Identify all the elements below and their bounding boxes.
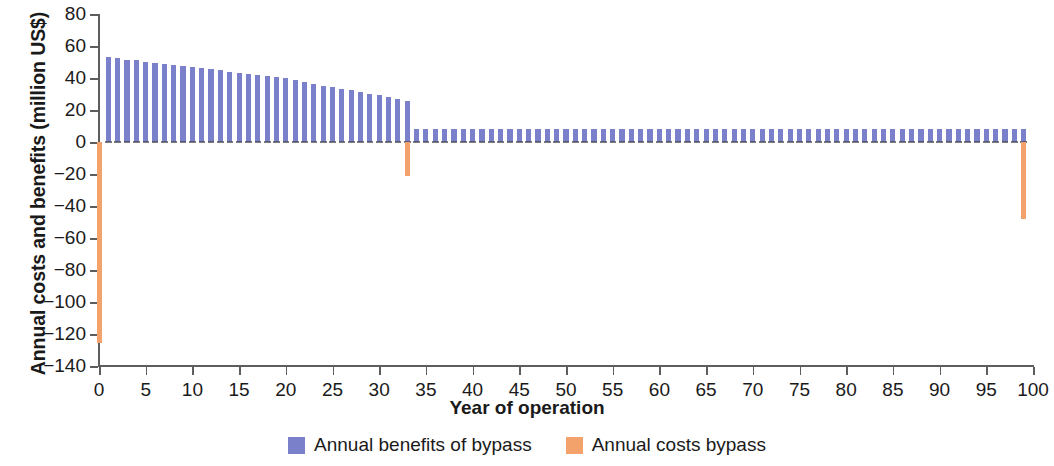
bar-baseline-shadow <box>628 141 635 143</box>
bar-baseline-shadow <box>516 141 523 143</box>
bar-cost <box>405 142 410 176</box>
bar-baseline-shadow <box>357 141 364 143</box>
legend-label: Annual benefits of bypass <box>314 434 532 456</box>
bar-benefit <box>162 64 167 142</box>
x-axis-tick-mark <box>1033 367 1035 375</box>
bar-baseline-shadow <box>376 141 383 143</box>
bar-benefit <box>180 66 185 142</box>
y-axis-tick-label: −80 <box>54 259 86 281</box>
bar-baseline-shadow <box>834 141 841 143</box>
bar-baseline-shadow <box>301 141 308 143</box>
bar-benefit <box>143 62 148 142</box>
bar-baseline-shadow <box>161 141 168 143</box>
y-axis-tick-label: 0 <box>75 131 86 153</box>
bar-baseline-shadow <box>815 141 822 143</box>
bar-baseline-shadow <box>759 141 766 143</box>
bar-benefit <box>134 60 139 142</box>
x-axis-tick-mark <box>286 367 288 375</box>
bar-baseline-shadow <box>927 141 934 143</box>
bar-baseline-shadow <box>619 141 626 143</box>
bar-baseline-shadow <box>852 141 859 143</box>
bar-baseline-shadow <box>273 141 280 143</box>
bar-benefit <box>265 76 270 142</box>
legend-label: Annual costs bypass <box>592 434 766 456</box>
bar-benefit <box>237 73 242 142</box>
y-axis-tick-label: −100 <box>43 291 86 313</box>
y-axis-tick-mark <box>90 14 98 16</box>
bar-baseline-shadow <box>563 141 570 143</box>
legend-item[interactable]: Annual benefits of bypass <box>288 434 532 456</box>
bar-baseline-shadow <box>348 141 355 143</box>
y-axis-tick-label: 60 <box>65 35 86 57</box>
bar-baseline-shadow <box>918 141 925 143</box>
bar-benefit <box>367 94 372 142</box>
bar-baseline-shadow <box>152 141 159 143</box>
bar-baseline-shadow <box>124 141 131 143</box>
bar-baseline-shadow <box>385 141 392 143</box>
bar-baseline-shadow <box>423 141 430 143</box>
bar-benefit <box>115 58 120 142</box>
bar-baseline-shadow <box>171 141 178 143</box>
bar-baseline-shadow <box>908 141 915 143</box>
bar-baseline-shadow <box>862 141 869 143</box>
bar-baseline-shadow <box>684 141 691 143</box>
bar-baseline-shadow <box>591 141 598 143</box>
bar-baseline-shadow <box>264 141 271 143</box>
bar-baseline-shadow <box>199 141 206 143</box>
bar-baseline-shadow <box>189 141 196 143</box>
bar-benefit <box>199 68 204 142</box>
bar-benefit <box>377 95 382 142</box>
bar-baseline-shadow <box>1011 141 1018 143</box>
bar-benefit <box>293 80 298 142</box>
bar-baseline-shadow <box>871 141 878 143</box>
bar-baseline-shadow <box>666 141 673 143</box>
bar-baseline-shadow <box>245 141 252 143</box>
bar-baseline-shadow <box>581 141 588 143</box>
bar-benefit <box>395 99 400 142</box>
bar-benefit <box>283 78 288 142</box>
legend-item[interactable]: Annual costs bypass <box>566 434 766 456</box>
bar-baseline-shadow <box>114 141 121 143</box>
bar-baseline-shadow <box>796 141 803 143</box>
bar-baseline-shadow <box>610 141 617 143</box>
bar-benefit <box>124 60 129 142</box>
bar-baseline-shadow <box>731 141 738 143</box>
bar-baseline-shadow <box>544 141 551 143</box>
bar-baseline-shadow <box>778 141 785 143</box>
bar-baseline-shadow <box>311 141 318 143</box>
bar-baseline-shadow <box>451 141 458 143</box>
bar-baseline-shadow <box>974 141 981 143</box>
bar-baseline-shadow <box>880 141 887 143</box>
bar-benefit <box>405 101 410 142</box>
x-axis-tick-mark <box>706 367 708 375</box>
bar-baseline-shadow <box>255 141 262 143</box>
bar-baseline-shadow <box>497 141 504 143</box>
x-axis-tick-mark <box>146 367 148 375</box>
bar-baseline-shadow <box>460 141 467 143</box>
bar-benefit <box>190 67 195 142</box>
bar-benefit <box>171 65 176 142</box>
bar-baseline-shadow <box>525 141 532 143</box>
bar-cost <box>97 142 102 343</box>
bar-baseline-shadow <box>899 141 906 143</box>
bar-baseline-shadow <box>479 141 486 143</box>
bar-benefit <box>227 72 232 142</box>
y-axis-tick-mark <box>90 46 98 48</box>
y-axis-tick-label: −140 <box>43 355 86 377</box>
bar-baseline-shadow <box>955 141 962 143</box>
bar-benefit <box>330 87 335 142</box>
x-axis-tick-mark <box>239 367 241 375</box>
bar-baseline-shadow <box>143 141 150 143</box>
bar-baseline-shadow <box>441 141 448 143</box>
bar-benefit <box>349 90 354 142</box>
bar-baseline-shadow <box>329 141 336 143</box>
bar-baseline-shadow <box>740 141 747 143</box>
x-axis-tick-mark <box>426 367 428 375</box>
legend-swatch-benefits <box>288 437 305 454</box>
y-axis-tick-label: −60 <box>54 227 86 249</box>
x-axis-tick-mark <box>566 367 568 375</box>
x-axis-title: Year of operation <box>0 397 1054 419</box>
x-axis-tick-mark <box>379 367 381 375</box>
x-axis-tick-mark <box>519 367 521 375</box>
bar-benefit <box>246 74 251 142</box>
